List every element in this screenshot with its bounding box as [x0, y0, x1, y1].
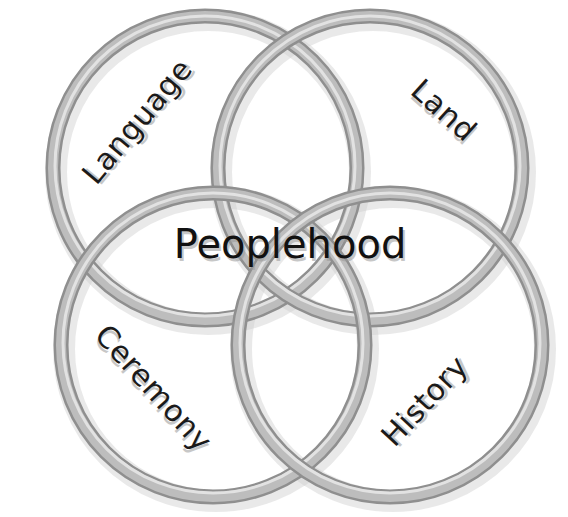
center-label-peoplehood: Peoplehood: [174, 221, 407, 267]
label-center-group: Peoplehood Peoplehood: [174, 221, 409, 270]
label-land-group: Land Land: [402, 72, 485, 152]
peoplehood-venn-diagram: Language Language Land Land Ceremony Cer…: [0, 0, 568, 517]
label-history-group: History History: [374, 347, 478, 455]
label-ceremony: Ceremony: [88, 318, 220, 459]
label-history: History: [374, 349, 475, 453]
